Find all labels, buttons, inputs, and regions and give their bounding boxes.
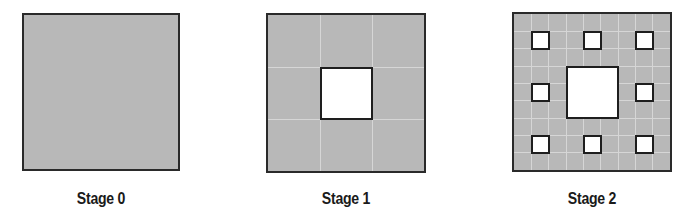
stage-0-square bbox=[22, 13, 180, 171]
stage-2-square bbox=[512, 12, 672, 172]
stage-2-label: Stage 2 bbox=[522, 190, 663, 208]
hole-square bbox=[635, 31, 653, 49]
hole-square bbox=[320, 67, 373, 120]
hole-square bbox=[531, 135, 549, 153]
hole-square bbox=[635, 83, 653, 101]
stage-0-label: Stage 0 bbox=[31, 190, 172, 208]
hole-square bbox=[583, 135, 601, 153]
hole-square bbox=[583, 31, 601, 49]
hole-square bbox=[531, 31, 549, 49]
hole-square bbox=[566, 66, 619, 119]
hole-square bbox=[635, 135, 653, 153]
stage-1-square bbox=[266, 13, 426, 173]
hole-square bbox=[531, 83, 549, 101]
stage-1-label: Stage 1 bbox=[276, 190, 417, 208]
